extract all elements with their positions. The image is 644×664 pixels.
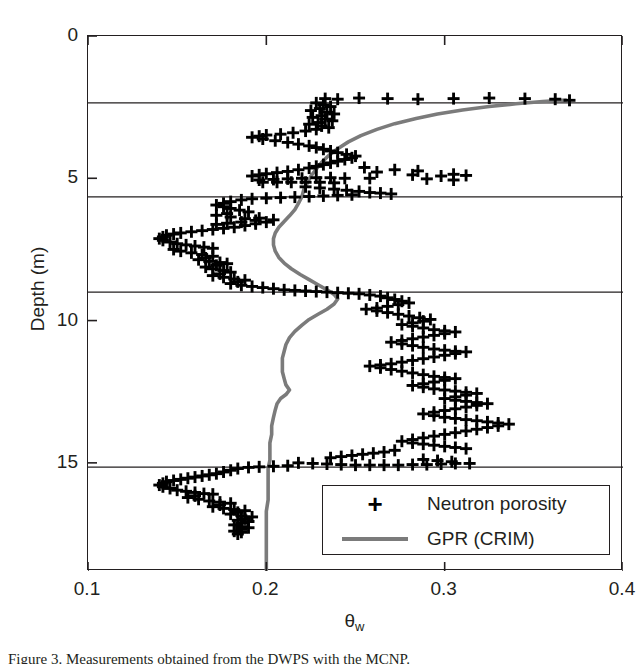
- x-axis-tick-labels: 0.10.20.30.4: [87, 578, 622, 604]
- x-tick-label-0.3: 0.3: [430, 578, 456, 600]
- figure-caption: Figure 3. Measurements obtained from the…: [8, 650, 636, 664]
- plus-marker-icon: +: [323, 491, 427, 517]
- x-tick-label-0.4: 0.4: [609, 578, 635, 600]
- y-tick-label-5: 5: [67, 166, 78, 188]
- y-tick-label-10: 10: [57, 309, 78, 331]
- figure-container: 051015 Depth (m) 0.10.20.30.4 θw + Neutr…: [0, 0, 644, 664]
- y-axis-title: Depth (m): [27, 209, 49, 369]
- legend-label-neutron-porosity: Neutron porosity: [427, 493, 566, 515]
- legend-box: + Neutron porosity GPR (CRIM): [322, 485, 610, 555]
- y-tick-label-15: 15: [57, 451, 78, 473]
- neutron-porosity-markers: [153, 92, 575, 540]
- legend-entry-neutron-porosity: + Neutron porosity: [323, 486, 609, 521]
- x-tick-label-0.2: 0.2: [252, 578, 278, 600]
- legend-entry-gpr-crim: GPR (CRIM): [323, 521, 609, 556]
- theta-symbol: θ: [345, 610, 356, 631]
- line-swatch-icon: [323, 537, 427, 541]
- theta-subscript: w: [355, 619, 364, 634]
- x-tick-label-0.1: 0.1: [74, 578, 100, 600]
- y-tick-label-0: 0: [67, 24, 78, 46]
- x-axis-title: θw: [87, 610, 622, 634]
- legend-label-gpr-crim: GPR (CRIM): [427, 528, 535, 550]
